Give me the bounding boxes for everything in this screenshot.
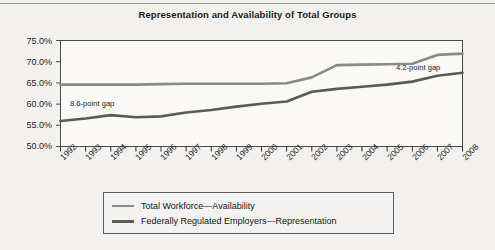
legend-swatch-representation-icon [112,220,134,223]
y-axis-ticks [56,41,61,147]
annotation-gap-1993: 8.6-point gap [70,99,114,108]
legend-item-availability: Total Workforce—Availability [112,199,255,213]
line-chart: Representation and Availability of Total… [0,0,495,250]
legend-swatch-availability-icon [112,205,134,207]
legend-label-availability: Total Workforce—Availability [141,201,255,211]
legend-item-representation: Federally Regulated Employers—Representa… [112,214,337,228]
annotation-gap-2006: 4.2-point gap [396,63,440,72]
legend-label-representation: Federally Regulated Employers—Representa… [141,216,337,226]
chart-legend: Total Workforce—Availability Federally R… [103,192,394,234]
